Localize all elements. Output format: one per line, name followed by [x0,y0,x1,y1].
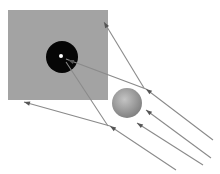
ray-2 [146,110,211,158]
ray-3 [137,123,203,165]
arrow-3-icon [136,121,143,128]
ray-5 [104,22,144,88]
sphere [112,88,142,118]
ray-4 [24,102,176,170]
pinpoint-light [59,54,63,58]
diagram-canvas [0,0,220,174]
optics-diagram [0,0,220,174]
arrow-5-icon [23,100,30,106]
arrow-4-icon [109,124,116,131]
